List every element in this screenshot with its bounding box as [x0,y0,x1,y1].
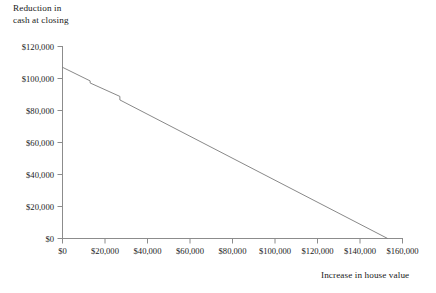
x-tick-label-100000: $100,000 [259,246,291,256]
data-series-line [63,67,388,238]
x-tick-label-160000: $160,000 [386,246,418,256]
y-tick-label-80000: $80,000 [26,106,54,116]
chart-plot-area: $120,000 $100,000 $80,000 $60,000 $40,00… [0,0,436,293]
y-tick-label-100000: $100,000 [22,74,54,84]
y-tick-label-60000: $60,000 [26,138,54,148]
y-tick-label-120000: $120,000 [22,42,54,52]
x-tick-label-120000: $120,000 [301,246,333,256]
x-axis-title: Increase in house value [321,270,409,280]
y-tick-label-40000: $40,000 [26,170,54,180]
x-tick-label-60000: $60,000 [176,246,204,256]
x-tick-label-0: $0 [58,246,67,256]
chart-container: Reduction in cash at closing $120,000 $1… [0,0,436,293]
x-axis-ticks [63,239,403,244]
x-tick-label-40000: $40,000 [134,246,162,256]
x-tick-label-80000: $80,000 [219,246,247,256]
y-tick-label-0: $0 [45,234,54,244]
y-axis-ticks [58,47,63,239]
x-tick-label-20000: $20,000 [91,246,119,256]
x-tick-label-140000: $140,000 [344,246,376,256]
y-tick-label-20000: $20,000 [26,202,54,212]
